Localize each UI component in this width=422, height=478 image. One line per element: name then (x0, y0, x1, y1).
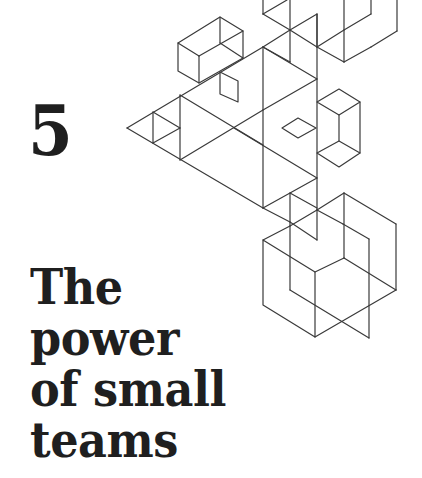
small-rhombus-left (220, 72, 238, 102)
chapter-number: 5 (28, 96, 72, 166)
center-rhombus (282, 118, 316, 138)
small-box-top-left (178, 17, 243, 83)
large-triangle-left (127, 47, 317, 208)
title-line-3: of small (30, 364, 226, 415)
title-line-2: power (30, 313, 226, 364)
top-cubes (263, 0, 397, 62)
title-line-1: The (30, 262, 226, 313)
title-line-4: teams (30, 415, 226, 466)
right-prism (317, 89, 360, 167)
lower-cube-cluster (263, 193, 396, 338)
chapter-title: The power of small teams (30, 262, 226, 466)
